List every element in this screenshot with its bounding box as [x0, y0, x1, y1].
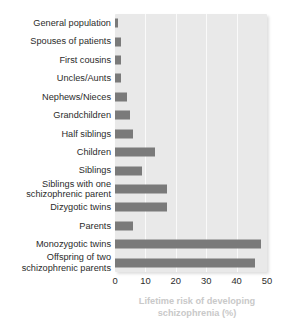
- bar: [115, 129, 133, 138]
- bar-track: [115, 106, 296, 124]
- category-label: Dizygotic twins: [0, 202, 115, 212]
- bar-row: Half siblings: [0, 125, 296, 143]
- category-label: Grandchildren: [0, 110, 115, 120]
- bar: [115, 258, 255, 267]
- category-label: First cousins: [0, 55, 115, 65]
- category-label: Half siblings: [0, 129, 115, 139]
- x-tick-label: 10: [140, 275, 150, 286]
- bar-row: Spouses of patients: [0, 32, 296, 50]
- x-tick-label: 20: [171, 275, 181, 286]
- bar: [115, 240, 261, 249]
- category-label: Parents: [0, 221, 115, 231]
- category-label: Siblings with one schizophrenic parent: [0, 179, 115, 200]
- bar-track: [115, 125, 296, 143]
- bar-track: [115, 51, 296, 69]
- bar-row: Grandchildren: [0, 106, 296, 124]
- x-tick-label: 0: [112, 275, 117, 286]
- bar-track: [115, 198, 296, 216]
- bar: [115, 92, 127, 101]
- bar: [115, 74, 121, 83]
- bar: [115, 56, 121, 65]
- bar-rows: General populationSpouses of patientsFir…: [0, 14, 296, 272]
- bar-track: [115, 14, 296, 32]
- bar-row: Nephews/Nieces: [0, 88, 296, 106]
- bar: [115, 166, 142, 175]
- bar: [115, 19, 118, 28]
- bar-row: First cousins: [0, 51, 296, 69]
- bar: [115, 148, 155, 157]
- bar-track: [115, 217, 296, 235]
- bar: [115, 111, 130, 120]
- category-label: Siblings: [0, 165, 115, 175]
- bar-row: Children: [0, 143, 296, 161]
- bar-track: [115, 32, 296, 50]
- bar-row: Siblings: [0, 161, 296, 179]
- bar-row: Monozygotic twins: [0, 235, 296, 253]
- x-tick-label: 50: [262, 275, 272, 286]
- category-label: Monozygotic twins: [0, 239, 115, 249]
- bar-track: [115, 69, 296, 87]
- bar: [115, 203, 167, 212]
- bar-track: [115, 161, 296, 179]
- bar-track: [115, 235, 296, 253]
- bar: [115, 37, 121, 46]
- bar-track: [115, 143, 296, 161]
- category-label: Uncles/Aunts: [0, 73, 115, 83]
- chart-figure: General populationSpouses of patientsFir…: [0, 0, 296, 336]
- bar-row: Offspring of two schizophrenic parents: [0, 254, 296, 272]
- category-label: Offspring of two schizophrenic parents: [0, 252, 115, 273]
- bar-row: Dizygotic twins: [0, 198, 296, 216]
- category-label: Children: [0, 147, 115, 157]
- bar: [115, 221, 133, 230]
- bar-row: Uncles/Aunts: [0, 69, 296, 87]
- x-axis-title: Lifetime risk of developing schizophreni…: [108, 296, 286, 319]
- bar-row: Siblings with one schizophrenic parent: [0, 180, 296, 198]
- category-label: General population: [0, 18, 115, 28]
- category-label: Nephews/Nieces: [0, 92, 115, 102]
- x-tick-label: 30: [201, 275, 211, 286]
- x-tick-label: 40: [231, 275, 241, 286]
- bar-row: General population: [0, 14, 296, 32]
- bar-track: [115, 254, 296, 272]
- x-axis-ticks: 01020304050: [115, 275, 267, 288]
- bar-track: [115, 88, 296, 106]
- bar-track: [115, 180, 296, 198]
- bar: [115, 185, 167, 194]
- bar-row: Parents: [0, 217, 296, 235]
- category-label: Spouses of patients: [0, 36, 115, 46]
